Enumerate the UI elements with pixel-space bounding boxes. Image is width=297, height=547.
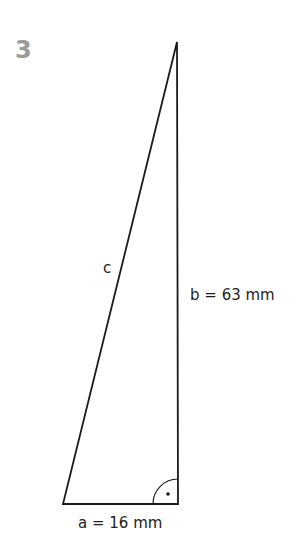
triangle-outline xyxy=(63,42,178,504)
side-b-label: b = 63 mm xyxy=(190,286,275,304)
right-angle-dot-icon xyxy=(166,492,170,496)
side-a-label: a = 16 mm xyxy=(78,514,162,532)
hypotenuse-label: c xyxy=(103,259,111,277)
right-angle-arc-icon xyxy=(153,479,178,504)
right-triangle-figure xyxy=(0,0,297,547)
